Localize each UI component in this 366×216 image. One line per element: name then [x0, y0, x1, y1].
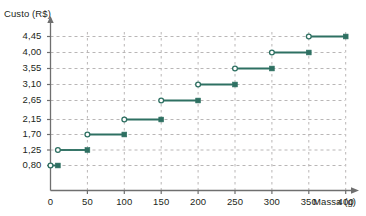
marker-filled-2,65	[196, 98, 201, 103]
marker-filled-1,70	[122, 132, 127, 137]
marker-open-4,00	[270, 50, 275, 55]
x-tick-label-400: 400	[331, 196, 361, 207]
marker-filled-4,00	[306, 50, 311, 55]
y-tick-label-1,70: 1,70	[12, 128, 42, 139]
y-tick-label-3,10: 3,10	[12, 78, 42, 89]
x-tick-label-350: 350	[294, 196, 324, 207]
y-tick-label-2,65: 2,65	[12, 94, 42, 105]
x-tick-label-200: 200	[183, 196, 213, 207]
marker-open-0,80	[48, 163, 53, 168]
y-tick-label-4,00: 4,00	[12, 46, 42, 57]
marker-filled-2,15	[159, 117, 164, 122]
y-tick-label-4,45: 4,45	[12, 30, 42, 41]
x-axis-arrow	[351, 187, 359, 193]
cost-vs-mass-step-chart: Custo (R$) Massa (g) 0,801,251,702,152,6…	[0, 0, 366, 216]
x-tick-label-100: 100	[109, 196, 139, 207]
marker-filled-4,45	[343, 34, 348, 39]
y-tick-label-3,55: 3,55	[12, 62, 42, 73]
marker-filled-0,80	[55, 163, 60, 168]
x-tick-label-50: 50	[72, 196, 102, 207]
y-tick-label-2,15: 2,15	[12, 113, 42, 124]
marker-open-1,70	[85, 132, 90, 137]
x-tick-label-300: 300	[257, 196, 287, 207]
x-tick-label-0: 0	[36, 196, 66, 207]
y-tick-label-0,80: 0,80	[12, 159, 42, 170]
marker-open-1,25	[55, 148, 60, 153]
axis-lines	[47, 16, 359, 194]
marker-filled-3,55	[270, 66, 275, 71]
marker-filled-1,25	[85, 148, 90, 153]
chart-plot-area	[0, 0, 366, 216]
marker-filled-3,10	[233, 82, 238, 87]
marker-open-3,55	[233, 66, 238, 71]
marker-open-2,65	[159, 98, 164, 103]
marker-open-2,15	[122, 117, 127, 122]
x-tick-label-250: 250	[220, 196, 250, 207]
y-tick-label-1,25: 1,25	[12, 144, 42, 155]
marker-open-4,45	[306, 34, 311, 39]
x-tick-label-150: 150	[146, 196, 176, 207]
marker-open-3,10	[196, 82, 201, 87]
y-axis-title: Custo (R$)	[4, 8, 51, 19]
